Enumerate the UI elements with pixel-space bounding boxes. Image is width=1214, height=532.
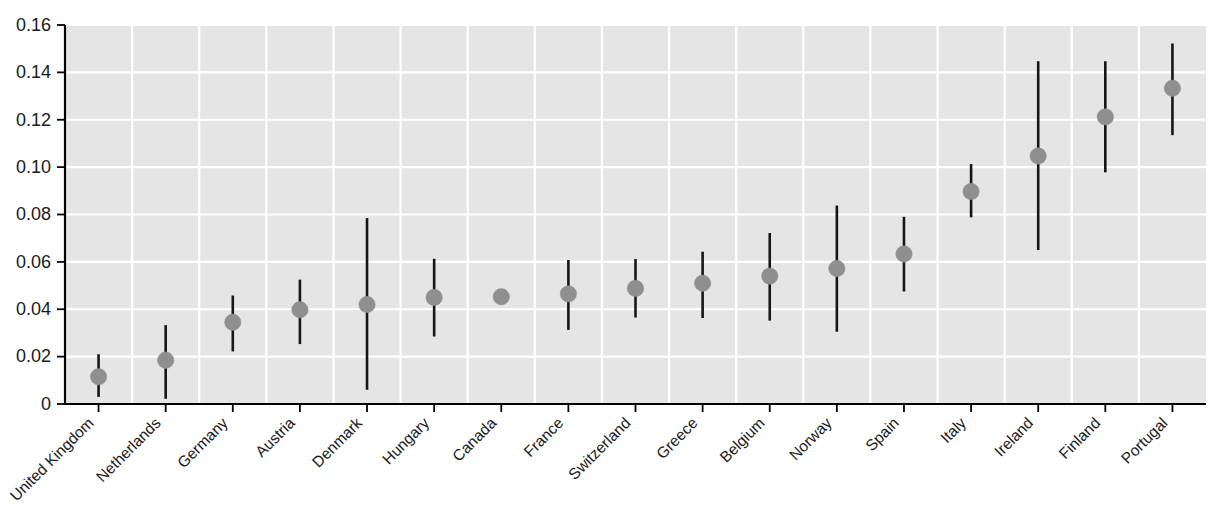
x-tick-label: Switzerland (565, 414, 634, 483)
x-tick-label: Italy (937, 414, 969, 446)
x-axis: United KingdomNetherlandsGermanyAustriaD… (7, 404, 1173, 504)
data-point-marker (359, 296, 375, 312)
data-point-marker (1030, 148, 1046, 164)
y-tick-label: 0.06 (16, 252, 51, 272)
y-axis: 00.020.040.060.080.100.120.140.16 (16, 15, 65, 414)
data-point-group (493, 288, 509, 304)
x-tick-label: Netherlands (93, 414, 164, 485)
data-point-marker (1097, 109, 1113, 125)
x-tick-label: Ireland (991, 414, 1037, 460)
data-point-marker (694, 275, 710, 291)
x-tick-label: Spain (862, 414, 902, 454)
data-point-marker (963, 183, 979, 199)
y-tick-label: 0.08 (16, 204, 51, 224)
x-tick-label: Germany (174, 414, 231, 471)
y-tick-label: 0.16 (16, 15, 51, 35)
x-tick-label: Canada (449, 414, 500, 465)
chart-container: 00.020.040.060.080.100.120.140.16United … (0, 0, 1214, 532)
x-tick-label: France (520, 414, 566, 460)
data-point-marker (426, 289, 442, 305)
y-tick-label: 0.04 (16, 299, 51, 319)
x-tick-label: Portugal (1118, 414, 1171, 467)
x-tick-label: Norway (786, 414, 835, 463)
x-tick-label: Hungary (379, 414, 433, 468)
data-point-marker (292, 302, 308, 318)
x-tick-label: Austria (252, 414, 298, 460)
x-tick-label: United Kingdom (7, 414, 97, 504)
data-point-marker (896, 246, 912, 262)
y-tick-label: 0.10 (16, 157, 51, 177)
x-tick-label: Denmark (309, 414, 366, 471)
data-point-marker (225, 314, 241, 330)
x-tick-label: Finland (1055, 414, 1103, 462)
data-point-marker (762, 268, 778, 284)
data-point-marker (1164, 80, 1180, 96)
data-point-marker (627, 280, 643, 296)
x-tick-label: Greece (653, 414, 701, 462)
data-point-marker (560, 286, 576, 302)
x-tick-label: Belgium (716, 414, 768, 466)
figure-caption (300, 512, 1205, 531)
y-tick-label: 0.02 (16, 346, 51, 366)
data-point-marker (157, 352, 173, 368)
error-bar-chart: 00.020.040.060.080.100.120.140.16United … (0, 0, 1214, 532)
data-point-marker (493, 288, 509, 304)
y-tick-label: 0.12 (16, 110, 51, 130)
y-tick-label: 0.14 (16, 62, 51, 82)
data-point-marker (90, 369, 106, 385)
data-point-marker (829, 260, 845, 276)
y-tick-label: 0 (41, 394, 51, 414)
